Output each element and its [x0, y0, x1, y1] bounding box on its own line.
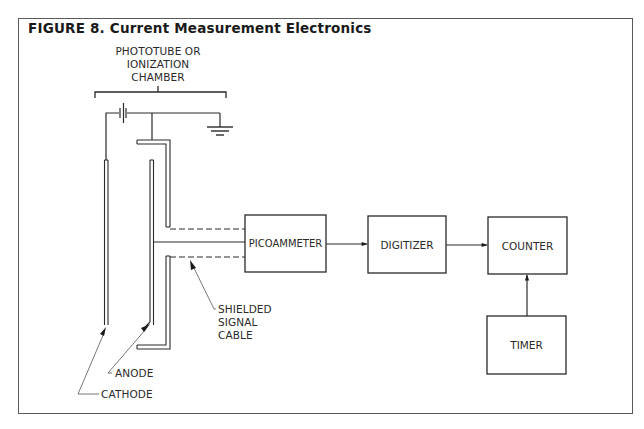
cable-label-line2: SIGNAL: [218, 316, 257, 328]
picoammeter-label: PICOAMMETER: [249, 238, 322, 249]
timer-block: TIMER: [487, 316, 566, 374]
picoammeter-block: PICOAMMETER: [245, 215, 326, 272]
anode-label: ANODE: [115, 367, 154, 379]
cable-label-line1: SHIELDED: [218, 303, 272, 315]
counter-block: COUNTER: [488, 217, 567, 274]
shielded-signal-cable: [154, 229, 246, 257]
timer-label: TIMER: [509, 339, 543, 351]
detector-bracket: [95, 86, 226, 98]
digitizer-block: DIGITIZER: [368, 216, 446, 273]
anode-electrode: [146, 160, 154, 326]
cable-label-line3: CABLE: [218, 329, 253, 341]
counter-label: COUNTER: [502, 240, 553, 252]
digitizer-label: DIGITIZER: [380, 239, 433, 251]
cathode-electrode: [105, 160, 109, 325]
detector-label-line1: PHOTOTUBE OR: [115, 45, 200, 57]
detector-label-line2: IONIZATION: [127, 58, 190, 70]
cable-label: SHIELDED SIGNAL CABLE: [218, 303, 272, 341]
detector-label-line3: CHAMBER: [131, 71, 184, 83]
cable-arrowhead: [190, 260, 196, 270]
circuit-diagram: PHOTOTUBE OR IONIZATION CHAMBER: [0, 0, 644, 429]
cathode-label: CATHODE: [101, 388, 153, 400]
detector-label: PHOTOTUBE OR IONIZATION CHAMBER: [115, 45, 200, 83]
